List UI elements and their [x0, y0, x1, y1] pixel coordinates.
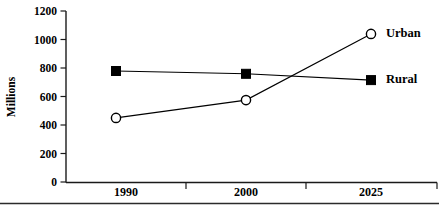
data-point-urban-2025	[366, 29, 375, 38]
series-urban: Urban	[111, 26, 420, 123]
y-tick-label: 0	[51, 176, 57, 188]
x-tick-label-1990: 1990	[114, 185, 138, 199]
x-tick-label-2000: 2000	[234, 185, 258, 199]
data-point-rural-2025	[367, 76, 376, 85]
data-point-urban-2000	[241, 96, 250, 105]
data-point-urban-1990	[111, 113, 120, 122]
series-rural: Rural	[112, 67, 418, 87]
series-label-rural: Rural	[386, 72, 418, 86]
y-tick-label: 800	[40, 62, 58, 74]
x-tick-marks	[186, 183, 437, 190]
y-tick-labels: 1200 1000 800 600 400 200 0	[34, 5, 57, 188]
y-axis-title: Millions	[5, 76, 17, 117]
y-tick-label: 200	[40, 148, 58, 160]
data-point-rural-2000	[242, 69, 251, 78]
y-tick-marks	[61, 11, 67, 182]
x-tick-label-2025: 2025	[359, 185, 383, 199]
series-label-urban: Urban	[386, 26, 421, 40]
line-chart: Millions 1200 1000 800 600 400 200 0	[0, 0, 439, 209]
x-tick-labels: 1990 2000 2025	[114, 185, 383, 199]
data-point-rural-1990	[112, 67, 121, 76]
chart-figure: Millions 1200 1000 800 600 400 200 0	[0, 0, 439, 209]
y-tick-label: 400	[40, 119, 58, 131]
y-tick-label: 600	[40, 91, 58, 103]
y-tick-label: 1200	[34, 5, 57, 17]
y-tick-label: 1000	[34, 34, 57, 46]
